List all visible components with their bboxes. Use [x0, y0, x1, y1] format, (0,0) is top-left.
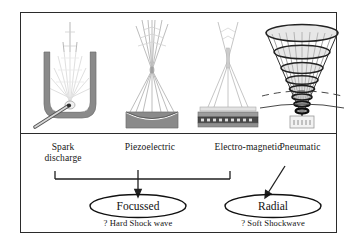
electro-magnetic-illustration: [188, 12, 268, 133]
outcome-focussed-label: Focussed: [90, 200, 186, 212]
caption-hard-shock-wave: ? Hard Shock wave: [82, 218, 194, 228]
label-spark-line1: Spark: [52, 142, 75, 152]
label-pneumatic: Pneumatic: [260, 142, 340, 153]
caption-soft-shockwave: ? Soft Shockwave: [217, 218, 329, 228]
label-piezoelectric: Piezoelectric: [104, 142, 196, 153]
figure-root: Spark discharge Piezoelectric Electro-ma…: [0, 0, 353, 252]
spark-discharge-illustration: [30, 12, 110, 133]
spark-discharge-reflector-icon: [35, 22, 96, 127]
classification-panel: Spark discharge Piezoelectric Electro-ma…: [20, 134, 337, 233]
piezoelectric-illustration: [112, 12, 192, 133]
electromagnetic-coil-icon: [198, 22, 258, 127]
focussed-arrow: [135, 170, 141, 197]
illustrations-panel: [20, 12, 337, 133]
piezoelectric-dish-icon: [126, 20, 178, 128]
label-spark-discharge: Spark discharge: [29, 142, 97, 164]
label-spark-line2: discharge: [44, 153, 81, 163]
outcome-radial-label: Radial: [225, 200, 321, 212]
pneumatic-cone-icon: [260, 25, 344, 129]
pneumatic-illustration: [258, 12, 350, 133]
radial-arrow: [265, 166, 285, 198]
focussed-bracket: [55, 171, 230, 179]
